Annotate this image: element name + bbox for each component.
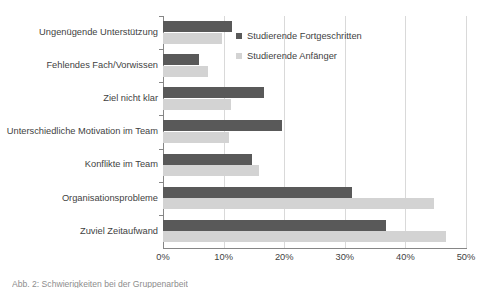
category-label: Ziel nicht klar bbox=[0, 82, 158, 115]
category-label: Konflikte im Team bbox=[0, 149, 158, 182]
category-label-text: Ziel nicht klar bbox=[103, 93, 158, 105]
legend-entry: Studierende Fortgeschritten bbox=[236, 28, 436, 44]
category-label: Fehlendes Fach/Vorwissen bbox=[0, 49, 158, 82]
bar bbox=[163, 99, 231, 110]
x-axis-line bbox=[163, 248, 467, 249]
bar bbox=[163, 33, 222, 44]
figure-caption: Abb. 2: Schwierigkeiten bei der Gruppena… bbox=[12, 279, 188, 288]
x-tick-label: 50% bbox=[457, 251, 476, 264]
x-tick-label: 40% bbox=[396, 251, 415, 264]
category-tick bbox=[159, 215, 163, 216]
gridline-50 bbox=[466, 16, 467, 248]
category-label-text: Fehlendes Fach/Vorwissen bbox=[46, 60, 158, 72]
category-axis-labels: Ungenügende UnterstützungFehlendes Fach/… bbox=[0, 16, 158, 248]
bar bbox=[163, 220, 386, 231]
bar-group bbox=[163, 115, 466, 148]
bar bbox=[163, 187, 352, 198]
category-tick bbox=[159, 82, 163, 83]
chart-legend: Studierende FortgeschrittenStudierende A… bbox=[236, 28, 436, 68]
legend-swatch-icon bbox=[236, 33, 242, 39]
x-tick-label: 10% bbox=[214, 251, 233, 264]
bar-group bbox=[163, 182, 466, 215]
bar-chart-figure: Ungenügende UnterstützungFehlendes Fach/… bbox=[0, 0, 489, 288]
bar bbox=[163, 132, 229, 143]
x-tick-label: 30% bbox=[335, 251, 354, 264]
category-label: Ungenügende Unterstützung bbox=[0, 16, 158, 49]
category-label: Zuviel Zeitaufwand bbox=[0, 215, 158, 248]
bar bbox=[163, 165, 259, 176]
bar bbox=[163, 120, 282, 131]
category-label-text: Unterschiedliche Motivation im Team bbox=[7, 126, 158, 138]
legend-swatch-icon bbox=[236, 53, 242, 59]
legend-entry: Studierende Anfänger bbox=[236, 48, 436, 64]
x-axis-tick-labels: 0%10%20%30%40%50% bbox=[0, 251, 489, 267]
category-label-text: Organisationsprobleme bbox=[62, 193, 158, 205]
category-label: Unterschiedliche Motivation im Team bbox=[0, 115, 158, 148]
category-label: Organisationsprobleme bbox=[0, 182, 158, 215]
category-tick bbox=[159, 49, 163, 50]
bar-group bbox=[163, 215, 466, 248]
x-tick-label: 20% bbox=[275, 251, 294, 264]
bar bbox=[163, 87, 264, 98]
legend-label: Studierende Anfänger bbox=[247, 51, 337, 62]
bar bbox=[163, 66, 208, 77]
category-tick bbox=[159, 115, 163, 116]
legend-label: Studierende Fortgeschritten bbox=[247, 31, 362, 42]
bar bbox=[163, 198, 434, 209]
bar bbox=[163, 21, 232, 32]
bar bbox=[163, 231, 446, 242]
bar-group bbox=[163, 82, 466, 115]
category-label-text: Ungenügende Unterstützung bbox=[39, 27, 158, 39]
bar bbox=[163, 54, 199, 65]
category-tick bbox=[159, 16, 163, 17]
category-tick bbox=[159, 149, 163, 150]
category-tick bbox=[159, 182, 163, 183]
bar-group bbox=[163, 149, 466, 182]
category-label-text: Konflikte im Team bbox=[85, 159, 158, 171]
bar bbox=[163, 154, 252, 165]
x-tick-label: 0% bbox=[156, 251, 169, 264]
category-label-text: Zuviel Zeitaufwand bbox=[80, 226, 158, 238]
